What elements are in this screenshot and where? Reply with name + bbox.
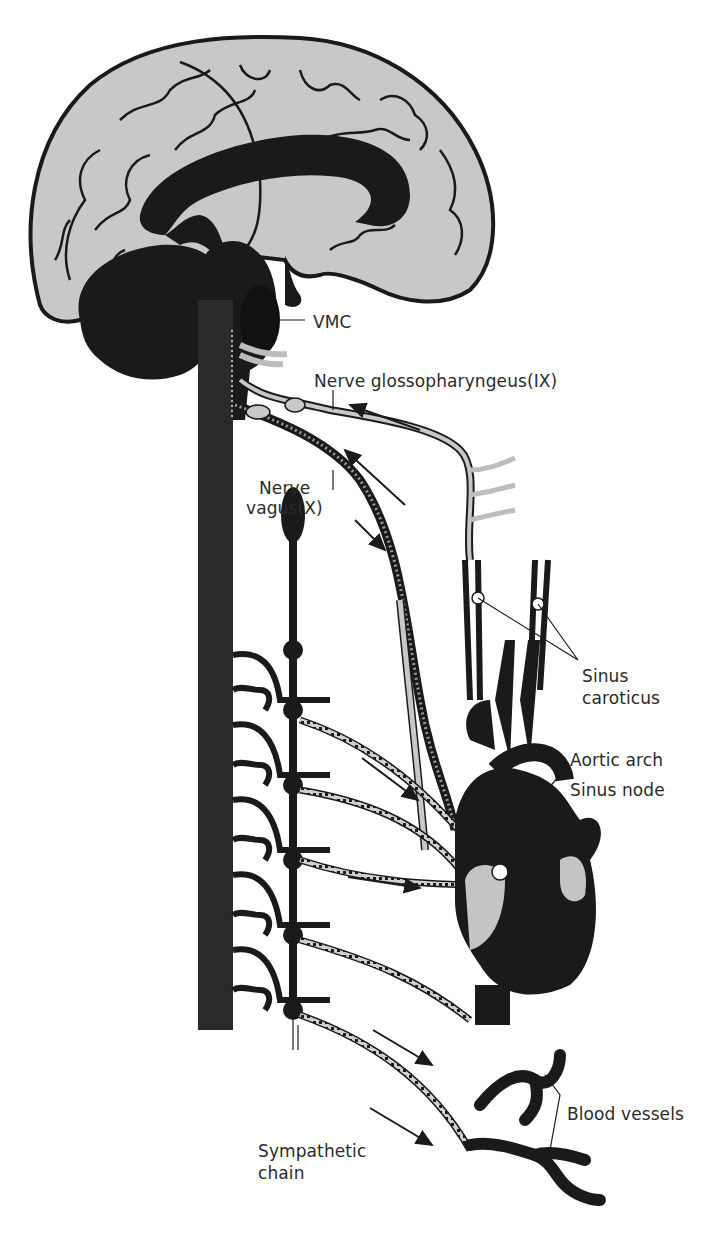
label-vagus-line2: vagus(X): [246, 497, 323, 519]
label-sympathetic-line1: Sympathetic: [258, 1140, 366, 1162]
label-vagus-line1: Nerve: [259, 477, 310, 499]
label-blood-vessels: Blood vessels: [567, 1103, 684, 1125]
sinus-node-marker: [492, 864, 508, 880]
label-aortic-arch: Aortic arch: [570, 749, 663, 771]
label-sympathetic-line2: chain: [258, 1162, 305, 1184]
sympathetic-fibres: [300, 720, 490, 1150]
baroreflex-diagram: [0, 0, 723, 1244]
spinal-cord: [198, 300, 233, 1030]
carotid-arteries: [465, 560, 578, 700]
label-sinus-node: Sinus node: [570, 779, 665, 801]
label-sinus-caroticus-line1: Sinus: [582, 665, 628, 687]
glossopharyngeal-nerve: [240, 380, 515, 560]
label-sinus-caroticus-line2: caroticus: [582, 687, 660, 709]
heart: [455, 640, 601, 1025]
label-glossopharyngeus: Nerve glossopharyngeus(IX): [314, 370, 557, 392]
label-vmc: VMC: [313, 311, 351, 333]
blood-vessels: [470, 1055, 600, 1200]
sympathetic-chain: [233, 487, 330, 1050]
